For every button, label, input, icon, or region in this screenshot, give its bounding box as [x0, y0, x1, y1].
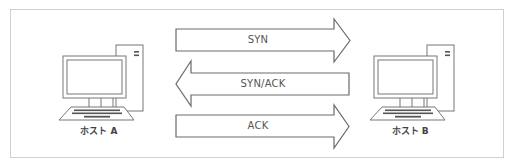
- host-a-label: ホスト A: [59, 126, 139, 137]
- ack-label: ACK: [171, 120, 345, 132]
- host-a-computer-icon: [59, 45, 143, 120]
- syn-ack-label: SYN/ACK: [176, 78, 350, 90]
- syn-label: SYN: [171, 34, 345, 46]
- host-b-label: ホスト B: [370, 126, 450, 137]
- host-b-computer-icon: [370, 45, 454, 120]
